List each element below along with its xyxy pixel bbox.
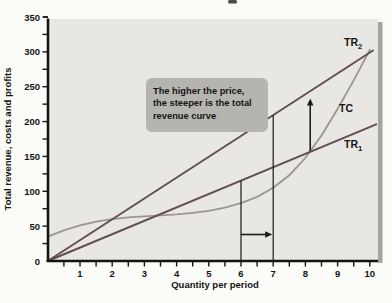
total-revenue-cost-figure: 05010015020025030035012345678910Total re…: [0, 0, 392, 303]
x-tick-label: 6: [238, 268, 243, 279]
y-tick-label: 50: [29, 221, 40, 232]
x-tick-label: 7: [271, 268, 276, 279]
x-tick-label: 8: [303, 268, 308, 279]
y-tick-label: 250: [24, 81, 40, 92]
x-tick-label: 1: [77, 268, 83, 279]
y-tick-label: 200: [24, 116, 40, 127]
y-tick-label: 0: [35, 256, 40, 267]
panel-shadow: [378, 22, 383, 263]
y-axis-title: Total revenue, costs and profits: [2, 68, 13, 211]
revenue-cost-chart: 05010015020025030035012345678910Total re…: [0, 0, 392, 303]
annotation-text-line: the steeper is the total: [153, 98, 252, 108]
x-tick-label: 4: [174, 268, 180, 279]
x-tick-label: 9: [335, 268, 340, 279]
y-tick-label: 300: [24, 46, 40, 57]
plot-panel: [48, 19, 378, 261]
annotation-text-line: The higher the price,: [153, 86, 244, 96]
x-tick-label: 10: [365, 268, 376, 279]
x-tick-label: 3: [142, 268, 147, 279]
y-tick-label: 350: [24, 12, 40, 23]
annotation-text-line: revenue curve: [153, 111, 216, 121]
curve-label-tc: TC: [339, 102, 353, 114]
y-tick-label: 150: [24, 151, 40, 162]
cropped-text-fragment: [228, 0, 237, 4]
x-tick-label: 5: [206, 268, 212, 279]
x-tick-label: 2: [110, 268, 115, 279]
x-axis-title: Quantity per period: [171, 279, 259, 290]
y-tick-label: 100: [24, 186, 40, 197]
